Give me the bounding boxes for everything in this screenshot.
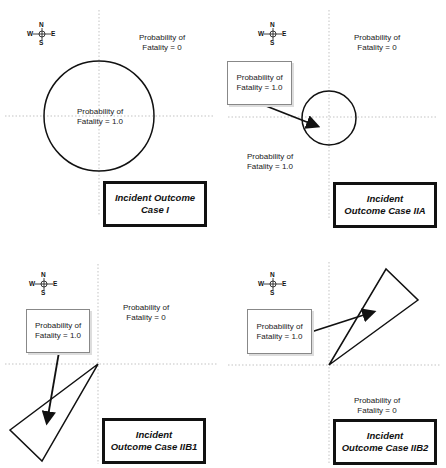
case-label: IncidentOutcome Case IIA <box>333 182 437 228</box>
compass-icon: N W E S <box>29 272 59 298</box>
case-label: Incident OutcomeCase I <box>103 181 207 227</box>
panel-case-i: N W E S Probability of Fatality = 0 Prob… <box>0 0 223 234</box>
drift-arrow <box>311 312 373 332</box>
label-inside: Probability of Fatality = 1.0 <box>70 107 130 127</box>
label-outside: Probability of Fatality = 0 <box>132 33 192 53</box>
compass-icon: N W E S <box>258 22 288 48</box>
label-lower: Probability of Fatality = 1.0 <box>240 152 300 172</box>
callout-box: Probability ofFatality = 1.0 <box>26 309 90 353</box>
drift-arrow <box>47 352 59 422</box>
impact-triangle <box>329 269 418 365</box>
compass-icon: N W E S <box>258 272 288 298</box>
case-label: IncidentOutcome Case IIB2 <box>333 419 437 465</box>
callout-box: Probability ofFatality = 1.0 <box>227 61 292 105</box>
callout-box: Probability ofFatality = 1.0 <box>247 309 312 354</box>
label-outside: Probability of Fatality = 0 <box>347 396 407 416</box>
label-outside: Probability of Fatality = 0 <box>116 303 176 323</box>
case-label: IncidentOutcome Case IIB1 <box>102 418 206 464</box>
drift-arrow <box>261 104 317 126</box>
label-outside: Probability of Fatality = 0 <box>347 33 407 53</box>
panel-case-iib2: N W E S Probability ofFatality = 1.0 Pro… <box>223 234 446 468</box>
panel-case-iia: N W E S Probability of Fatality = 0 Prob… <box>223 0 446 234</box>
panel-case-iib1: N W E S Probability of Fatality = 0 Prob… <box>0 234 223 468</box>
compass-icon: N W E S <box>27 22 57 48</box>
